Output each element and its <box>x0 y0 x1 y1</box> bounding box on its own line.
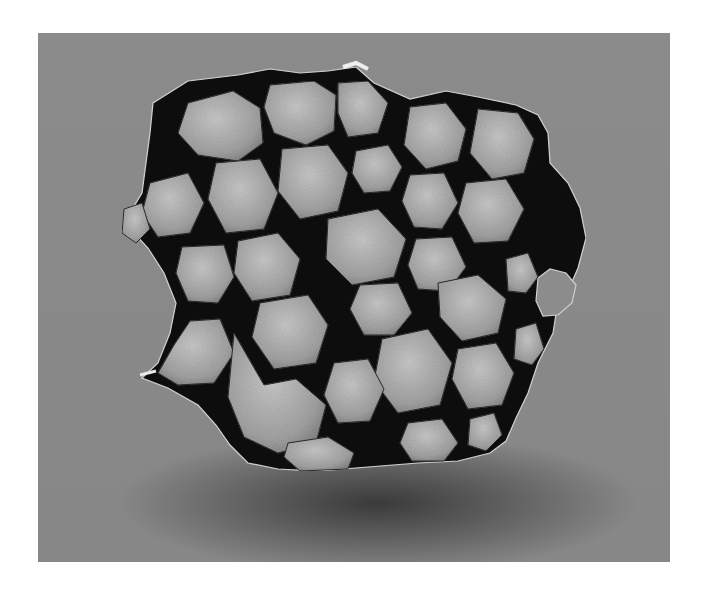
photo-frame <box>38 33 670 562</box>
meteorite-specimen <box>38 33 670 562</box>
photo-caption <box>38 568 670 582</box>
